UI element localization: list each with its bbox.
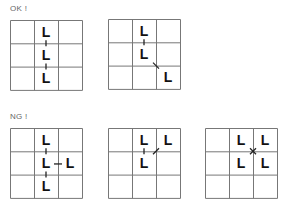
grid-ok-vertical-chain: LLL	[10, 20, 82, 90]
cell-glyph-L: L	[42, 155, 51, 171]
cell-glyph-L: L	[261, 132, 270, 148]
grid-ok-vertical-diagonal: LLL	[108, 19, 180, 89]
cell-glyph-L: L	[140, 132, 149, 148]
cell-glyph-L: L	[42, 178, 51, 194]
label-ng: NG !	[10, 112, 28, 121]
grid-ng-cross: LLLL	[205, 128, 277, 198]
cell-glyph-L: L	[42, 70, 51, 86]
grid-ng-branch: LLLL	[10, 128, 82, 198]
cell-glyph-L: L	[237, 155, 246, 171]
cell-glyph-L: L	[140, 23, 149, 39]
grid-ng-diagonal-up: LLL	[108, 128, 180, 198]
cell-glyph-L: L	[140, 46, 149, 62]
cell-glyph-L: L	[42, 132, 51, 148]
cell-glyph-L: L	[42, 47, 51, 63]
cell-glyph-L: L	[261, 155, 270, 171]
label-ok: OK !	[10, 4, 27, 13]
cell-glyph-L: L	[140, 155, 149, 171]
cell-glyph-L: L	[42, 24, 51, 40]
cell-glyph-L: L	[164, 132, 173, 148]
cell-glyph-L: L	[164, 69, 173, 85]
cell-glyph-L: L	[66, 155, 75, 171]
cell-glyph-L: L	[237, 132, 246, 148]
